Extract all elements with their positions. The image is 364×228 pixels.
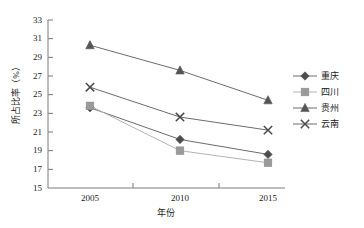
series-markers — [86, 41, 272, 167]
legend-item-1[interactable]: 重庆 — [292, 68, 362, 84]
series-lines — [90, 45, 268, 163]
y-tick-label: 19 — [24, 146, 42, 155]
y-tick-label: 25 — [24, 90, 42, 99]
diamond-marker — [264, 150, 272, 158]
triangle-marker — [301, 103, 309, 111]
legend-label: 四川 — [321, 87, 339, 97]
triangle-marker — [292, 101, 318, 115]
square-marker — [86, 102, 94, 110]
y-tick-label: 17 — [24, 165, 42, 174]
legend-item-3[interactable]: 贵州 — [292, 100, 362, 116]
y-tick-label: 27 — [24, 72, 42, 81]
triangle-marker — [86, 41, 94, 49]
chart-legend: 重庆四川贵州云南 — [292, 68, 362, 132]
legend-label: 贵州 — [321, 103, 339, 113]
square-marker — [176, 147, 184, 155]
x-tick-label: 2005 — [70, 194, 110, 203]
y-tick-label: 33 — [24, 16, 42, 25]
x-tick-label: 2010 — [160, 194, 200, 203]
y-tick-label: 31 — [24, 34, 42, 43]
series-line — [90, 87, 268, 130]
legend-label: 重庆 — [321, 71, 339, 81]
x-tick-label: 2015 — [248, 194, 288, 203]
line-chart: 15171921232527293133 200520102015 年份 所占比… — [0, 0, 364, 228]
square-marker — [301, 88, 309, 96]
diamond-marker — [301, 72, 309, 80]
legend-item-4[interactable]: 云南 — [292, 116, 362, 132]
y-axis-title: 所占比率（%） — [11, 53, 21, 133]
cross-marker — [292, 117, 318, 131]
cross-marker — [86, 83, 94, 91]
y-tick-label: 23 — [24, 109, 42, 118]
x-axis-title: 年份 — [126, 208, 206, 218]
y-tick-label: 29 — [24, 53, 42, 62]
y-tick-label: 15 — [24, 184, 42, 193]
square-marker — [292, 85, 318, 99]
square-marker — [264, 159, 272, 167]
y-axis-ticks — [48, 20, 53, 169]
axes — [48, 20, 285, 188]
y-tick-label: 21 — [24, 128, 42, 137]
legend-label: 云南 — [321, 119, 339, 129]
legend-item-2[interactable]: 四川 — [292, 84, 362, 100]
diamond-marker — [176, 135, 184, 143]
diamond-marker — [292, 69, 318, 83]
x-axis-ticks — [133, 183, 219, 188]
